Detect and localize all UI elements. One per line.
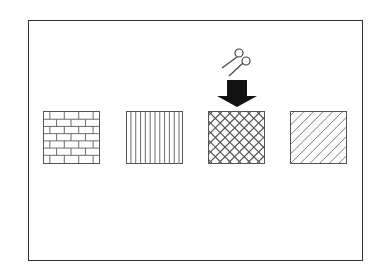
crosshatch-pattern-icon: [209, 112, 264, 163]
swatch-brick[interactable]: Brick pattern: [43, 111, 100, 164]
scissors-icon: [219, 47, 255, 79]
swatch-diagonal-lines[interactable]: Diagonal lines pattern: [290, 111, 347, 164]
brick-pattern-icon: [44, 112, 99, 163]
swatch-crosshatch[interactable]: Diagonal crosshatch pattern: [208, 111, 265, 164]
diagonal-lines-pattern-icon: [291, 112, 346, 163]
vertical-lines-pattern-icon: [127, 112, 182, 163]
swatch-vertical-lines[interactable]: Vertical lines pattern: [126, 111, 183, 164]
selection-arrow-down-icon: [216, 80, 258, 107]
